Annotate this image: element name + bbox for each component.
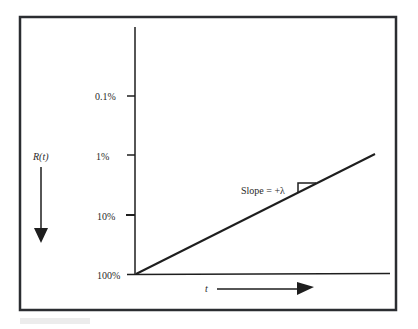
tick-label-100: 100%	[97, 270, 120, 281]
y-axis-label: R(t)	[32, 151, 49, 163]
slope-label: Slope = +λ	[241, 185, 285, 196]
decay-line	[136, 154, 375, 274]
tick-label-1: 1%	[96, 151, 109, 162]
x-axis	[127, 274, 390, 275]
tick-label-0-1: 0.1%	[95, 91, 116, 102]
diagram-figure: 0.1% 1% 10% 100% Slope = +λ R(t) t	[0, 0, 418, 329]
x-axis-label: t	[205, 283, 208, 294]
right-arrow-icon	[297, 282, 314, 295]
down-arrow-icon	[34, 228, 48, 243]
caption-remnant	[20, 318, 90, 324]
tick-label-10: 10%	[97, 211, 115, 222]
figure-frame	[20, 17, 396, 310]
